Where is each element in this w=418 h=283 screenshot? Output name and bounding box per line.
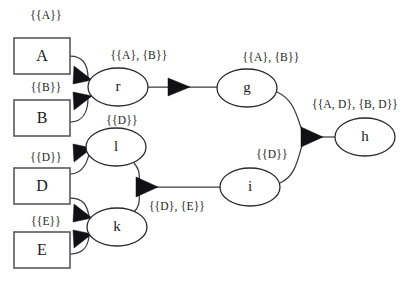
arrowhead-merge-h [301, 127, 323, 147]
edge-label-l-in: {{D}} [106, 114, 137, 126]
arrowhead-b-r [73, 92, 92, 110]
node-label-l: l [114, 138, 118, 154]
edge-label-g-out: {{A}, {B}} [243, 51, 300, 64]
node-label-k: k [113, 218, 121, 234]
node-label-i: i [248, 178, 252, 194]
edge-label-b: {{B}} [31, 81, 62, 93]
provenance-graph: A B D E r l k g i h {{A}} {{B}} {{D}} {{… [0, 0, 418, 283]
node-label-b: B [37, 109, 48, 126]
node-label-g: g [243, 79, 251, 95]
edge-label-k-out: {{D}, {E}} [149, 200, 205, 213]
node-label-d: D [36, 177, 48, 194]
node-label-h: h [361, 128, 369, 144]
node-label-a: A [36, 47, 48, 64]
edge-label-i-out: {{D}} [256, 148, 287, 160]
arrowhead-merge-i [136, 177, 158, 197]
edge-g-h [277, 92, 303, 133]
arrowhead-r-g [168, 78, 190, 96]
node-label-r: r [116, 78, 121, 94]
diagram-canvas: A B D E r l k g i h {{A}} {{B}} {{D}} {{… [0, 0, 418, 283]
edge-label-e: {{E}} [31, 215, 61, 227]
node-label-e: E [37, 241, 47, 258]
edge-label-d-box: {{D}} [30, 151, 61, 163]
edge-label-a: {{A}} [30, 9, 61, 21]
edge-label-r-out: {{A}, {B}} [111, 49, 168, 62]
edge-label-h-in: {{A, D}, {B, D}} [312, 98, 398, 111]
